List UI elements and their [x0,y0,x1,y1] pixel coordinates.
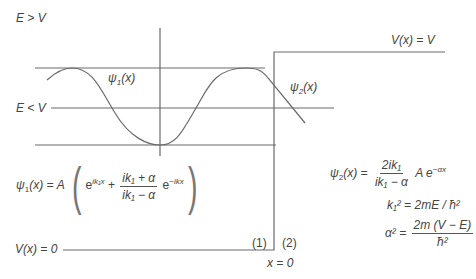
label-psi2: ψ2(x) [290,80,317,96]
equation-k1: k₁² = 2mE / ħ² [387,198,460,212]
equation-psi2: ψ2(x) = 2ik₁ik₁ − α A e−αx [330,158,446,189]
label-x-equals-0: x = 0 [267,256,293,270]
psi1-wave-curve [47,68,305,145]
label-e-greater-v: E > V [16,11,46,25]
label-v-equals-0: V(x) = 0 [15,242,57,256]
equation-psi1: ψ1(x) = A (eik₁x + ik₁ + αik₁ − α e−ikx) [16,160,201,212]
label-region-1: (1) [252,236,267,250]
label-v-equals-v: V(x) = V [391,33,435,47]
label-psi1: ψ1(x) [108,71,135,87]
label-region-2: (2) [282,236,297,250]
equation-alpha: α² = 2m (V − E)ħ² [385,218,475,249]
label-e-less-v: E < V [16,101,46,115]
